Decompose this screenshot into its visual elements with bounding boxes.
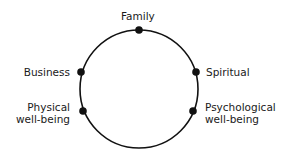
label-psychological-line1: Psychological [205,101,276,113]
label-business: Business [24,66,70,78]
label-psychological-line2: well-being [205,113,276,125]
label-physical-line1: Physical [16,101,70,113]
node-physical [79,107,87,115]
cycle-ring [80,30,198,148]
circle-diagram [0,0,292,162]
label-family: Family [121,10,155,22]
node-spiritual [192,68,200,76]
node-family [135,26,143,34]
label-physical-line2: well-being [16,113,70,125]
label-physical: Physical well-being [16,101,70,125]
label-psychological: Psychological well-being [205,101,276,125]
node-psychological [189,107,197,115]
label-spiritual: Spiritual [206,66,250,78]
node-business [77,68,85,76]
